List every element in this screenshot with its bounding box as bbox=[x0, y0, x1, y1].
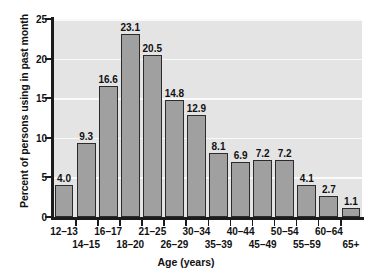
bar[interactable]: 7.2 bbox=[253, 19, 272, 217]
x-tick-mark bbox=[97, 219, 99, 226]
bar-rect bbox=[209, 153, 228, 217]
x-tick-label: 14–15 bbox=[72, 239, 100, 250]
x-tick-label: 16–17 bbox=[94, 226, 122, 237]
x-tick-label: 55–59 bbox=[293, 239, 321, 250]
bar-series: 4.09.316.623.120.514.812.98.16.97.27.24.… bbox=[53, 19, 362, 217]
x-tick-mark bbox=[318, 219, 320, 226]
bar-rect bbox=[99, 86, 118, 217]
bar-rect bbox=[121, 34, 140, 217]
x-tick-label: 50–54 bbox=[271, 226, 299, 237]
x-axis-title: Age (years) bbox=[0, 256, 372, 268]
y-tick-mark bbox=[45, 176, 52, 178]
x-tick-mark bbox=[252, 219, 254, 226]
x-tick-mark bbox=[75, 219, 77, 226]
bar-value-label: 4.1 bbox=[300, 173, 314, 184]
bar[interactable]: 20.5 bbox=[143, 19, 162, 217]
bar-value-label: 16.6 bbox=[98, 74, 117, 85]
x-tick-mark bbox=[208, 219, 210, 226]
x-tick-label: 18–20 bbox=[116, 239, 144, 250]
x-tick-mark bbox=[163, 219, 165, 226]
bar-value-label: 8.1 bbox=[212, 141, 226, 152]
bar[interactable]: 2.7 bbox=[319, 19, 338, 217]
x-tick-mark bbox=[230, 219, 232, 226]
y-tick-mark bbox=[45, 216, 52, 218]
bar[interactable]: 4.0 bbox=[55, 19, 74, 217]
bar-value-label: 23.1 bbox=[121, 22, 140, 33]
x-tick-mark bbox=[340, 219, 342, 226]
y-tick-mark bbox=[45, 18, 52, 20]
bar[interactable]: 16.6 bbox=[99, 19, 118, 217]
y-tick-mark bbox=[45, 97, 52, 99]
bar-rect bbox=[253, 160, 272, 217]
bar[interactable]: 14.8 bbox=[165, 19, 184, 217]
bar-rect bbox=[319, 196, 338, 217]
bar-value-label: 6.9 bbox=[234, 150, 248, 161]
x-tick-mark bbox=[185, 219, 187, 226]
x-tick-label: 21–25 bbox=[138, 226, 166, 237]
bar-rect bbox=[275, 160, 294, 217]
bar-rect bbox=[231, 162, 250, 217]
bar-value-label: 9.3 bbox=[79, 131, 93, 142]
bar-rect bbox=[55, 185, 74, 217]
bar-value-label: 2.7 bbox=[322, 184, 336, 195]
bar-rect bbox=[297, 185, 316, 217]
x-tick-label: 26–29 bbox=[160, 239, 188, 250]
bar-rect bbox=[187, 115, 206, 217]
bar[interactable]: 23.1 bbox=[121, 19, 140, 217]
bar-value-label: 14.8 bbox=[165, 88, 184, 99]
bar[interactable]: 8.1 bbox=[209, 19, 228, 217]
bar-value-label: 7.2 bbox=[256, 148, 270, 159]
bar[interactable]: 9.3 bbox=[77, 19, 96, 217]
y-tick-mark bbox=[45, 137, 52, 139]
bar-rect bbox=[165, 100, 184, 217]
bar[interactable]: 12.9 bbox=[187, 19, 206, 217]
x-tick-label: 45–49 bbox=[249, 239, 277, 250]
bar-rect bbox=[77, 143, 96, 217]
bar-rect bbox=[143, 55, 162, 217]
x-tick-mark bbox=[119, 219, 121, 226]
bar[interactable]: 1.1 bbox=[342, 19, 361, 217]
x-tick-mark bbox=[296, 219, 298, 226]
x-tick-label: 35–39 bbox=[205, 239, 233, 250]
x-tick-label: 60–64 bbox=[315, 226, 343, 237]
bar[interactable]: 4.1 bbox=[297, 19, 316, 217]
x-tick-label: 40–44 bbox=[227, 226, 255, 237]
x-tick-mark bbox=[274, 219, 276, 226]
x-tick-mark bbox=[141, 219, 143, 226]
bar-rect bbox=[342, 208, 361, 217]
bar-value-label: 1.1 bbox=[344, 196, 358, 207]
y-tick-mark bbox=[45, 58, 52, 60]
bar-value-label: 20.5 bbox=[143, 43, 162, 54]
bar-value-label: 4.0 bbox=[57, 173, 71, 184]
bar[interactable]: 7.2 bbox=[275, 19, 294, 217]
bar[interactable]: 6.9 bbox=[231, 19, 250, 217]
bar-chart: Percent of persons using in past month 0… bbox=[0, 0, 372, 274]
x-tick-label: 30–34 bbox=[183, 226, 211, 237]
bar-value-label: 7.2 bbox=[278, 148, 292, 159]
x-tick-label: 65+ bbox=[342, 239, 359, 250]
bar-value-label: 12.9 bbox=[187, 103, 206, 114]
x-tick-label: 12–13 bbox=[50, 226, 78, 237]
